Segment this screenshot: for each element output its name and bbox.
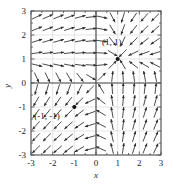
x-tick-label: 2 (137, 158, 142, 168)
y-tick-label: 1 (22, 54, 27, 64)
y-tick-label: 0 (22, 78, 27, 88)
y-tick-label: 3 (22, 6, 27, 16)
x-tick-label: 0 (94, 158, 99, 168)
x-tick-label: 3 (159, 158, 164, 168)
y-axis-title: y (2, 84, 12, 89)
direction-field-plot: -3-2-10123-3-2-10123xy(1, 1)(-1, -1) (0, 0, 177, 186)
x-axis-title: x (93, 170, 98, 180)
y-tick-label: -1 (19, 102, 27, 112)
point-annotation-label: (1, 1) (102, 37, 122, 47)
y-tick-label: -3 (19, 150, 27, 160)
y-tick-label: -2 (19, 126, 27, 136)
equilibrium-point (116, 57, 120, 61)
x-tick-label: 1 (115, 158, 120, 168)
equilibrium-point (72, 105, 76, 109)
x-tick-label: -3 (27, 158, 35, 168)
x-tick-label: -2 (49, 158, 57, 168)
point-annotation-label: (-1, -1) (34, 111, 60, 121)
vector-field-figure: -3-2-10123-3-2-10123xy(1, 1)(-1, -1) (0, 0, 177, 186)
y-tick-label: 2 (22, 30, 27, 40)
x-tick-label: -1 (71, 158, 79, 168)
